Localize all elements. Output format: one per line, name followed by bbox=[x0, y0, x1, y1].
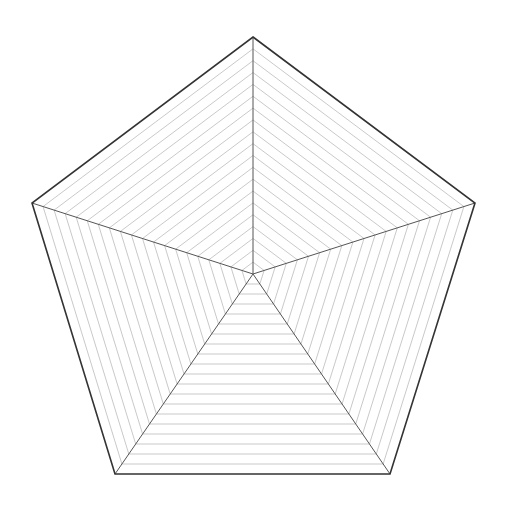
pentagon-radar-grid bbox=[0, 0, 508, 508]
background bbox=[0, 0, 508, 508]
